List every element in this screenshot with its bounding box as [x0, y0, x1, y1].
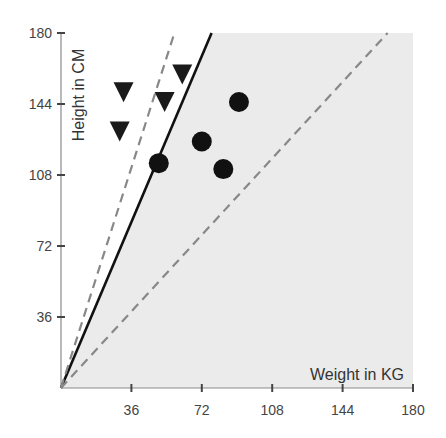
y-tick-label: 36 [36, 309, 52, 325]
x-axis-title: Weight in KG [310, 366, 404, 383]
y-tick-label: 72 [36, 238, 52, 254]
x-tick-label: 108 [261, 402, 285, 418]
circle-marker [149, 153, 169, 173]
y-tick-label: 144 [29, 96, 53, 112]
triangle-marker [155, 92, 175, 112]
x-tick-label: 144 [331, 402, 355, 418]
shaded-region [61, 33, 413, 388]
x-tick-label: 72 [194, 402, 210, 418]
x-tick-label: 36 [124, 402, 140, 418]
shaded-region-polygon [61, 33, 413, 388]
y-axis-title: Height in CM [70, 49, 87, 141]
circle-marker [192, 131, 212, 151]
circle-marker [229, 92, 249, 112]
x-tick-label: 180 [401, 402, 425, 418]
circle-marker [213, 159, 233, 179]
y-tick-label: 180 [29, 25, 53, 41]
triangle-marker [110, 122, 130, 142]
y-tick-label: 108 [29, 167, 53, 183]
triangle-marker [172, 64, 192, 84]
triangle-marker [114, 82, 134, 102]
scatter-chart: 36721081441803672108144180 Weight in KG … [0, 0, 446, 438]
